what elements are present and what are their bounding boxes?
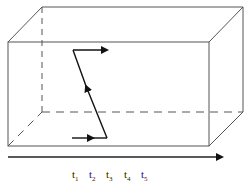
tick-label-t2: t2 [89, 168, 96, 183]
box-depth-edges [8, 7, 243, 146]
hidden-edge-depth [8, 112, 42, 146]
tick-label-t4: t4 [124, 168, 131, 183]
tick-label-t3: t3 [106, 168, 113, 183]
tick-label-t1: t1 [72, 168, 79, 183]
box-front-face [8, 42, 209, 146]
tick-label-t5: t5 [141, 168, 148, 183]
box-back-face [42, 7, 243, 112]
box-diagram [0, 0, 249, 187]
motion-path [72, 50, 107, 138]
